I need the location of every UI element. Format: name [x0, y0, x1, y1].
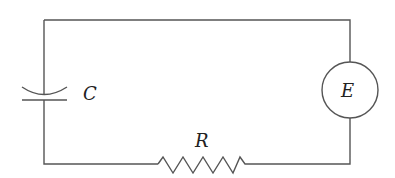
resistor-label: R — [194, 130, 209, 151]
capacitor-label: C — [83, 83, 97, 104]
circuit-diagram: C R E — [0, 0, 395, 178]
left-wire-lower — [44, 100, 158, 164]
emf-label: E — [340, 80, 354, 101]
top-wire — [44, 20, 350, 62]
resistor-symbol — [158, 118, 350, 173]
